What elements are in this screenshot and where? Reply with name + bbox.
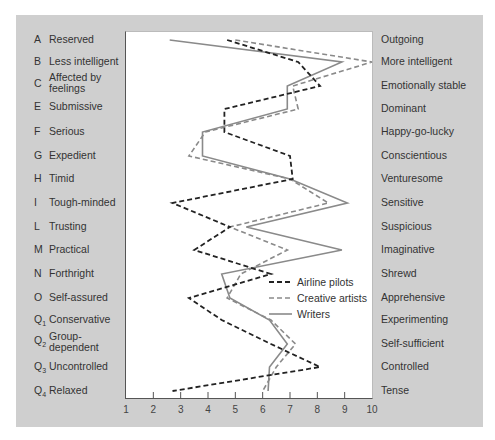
profile-chart: Airline pilots Creative artists Writers	[0, 0, 495, 440]
x-axis-ticks	[153, 392, 344, 399]
legend-label-airline-pilots: Airline pilots	[297, 276, 354, 288]
series-line-creative-artists	[189, 40, 372, 391]
series-lines	[170, 40, 372, 391]
legend-label-creative-artists: Creative artists	[297, 292, 367, 304]
legend-label-writers: Writers	[297, 308, 330, 320]
legend: Airline pilots Creative artists Writers	[269, 276, 367, 320]
